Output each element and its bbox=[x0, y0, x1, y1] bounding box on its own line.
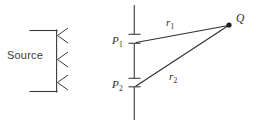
field-point-q-label: Q bbox=[236, 13, 244, 25]
emission-arrow-3 bbox=[58, 75, 69, 90]
rays-group bbox=[136, 26, 229, 87]
ray-r1-label: r1 bbox=[166, 17, 174, 28]
emission-arrow-1 bbox=[58, 28, 69, 43]
field-point-dot-icon bbox=[226, 22, 231, 27]
source-bracket-group bbox=[30, 30, 57, 92]
point-p2-label: P2 bbox=[112, 79, 122, 90]
ray-r2-label: r2 bbox=[169, 71, 177, 82]
emission-arrows-group bbox=[58, 28, 69, 90]
diagram-canvas bbox=[0, 0, 255, 130]
physics-diagram-figure: Source P1 P2 r1 r2 Q bbox=[0, 0, 255, 130]
ray-r2-line bbox=[136, 26, 229, 87]
source-label: Source bbox=[7, 50, 43, 61]
point-p1-label: P1 bbox=[112, 35, 122, 46]
emission-arrow-2 bbox=[58, 52, 69, 67]
